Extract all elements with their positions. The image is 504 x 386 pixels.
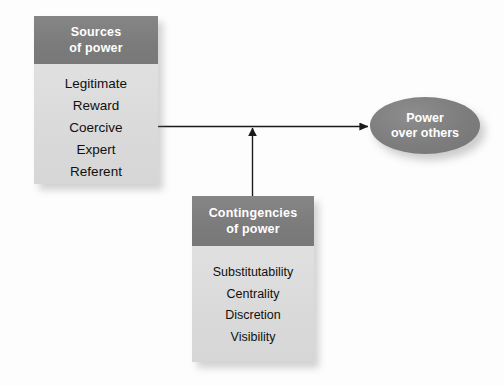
sources-header-line-2: of power (69, 41, 123, 56)
list-item: Expert (76, 143, 115, 157)
contingencies-header-line-2: of power (226, 222, 280, 237)
contingencies-body: Substitutability Centrality Discretion V… (192, 246, 314, 362)
contingencies-header-line-1: Contingencies (209, 206, 298, 221)
contingencies-header: Contingencies of power (192, 196, 314, 246)
node-power-over-others: Power over others (370, 97, 480, 154)
list-item: Referent (70, 165, 122, 179)
list-item: Coercive (69, 121, 122, 135)
list-item: Centrality (227, 288, 280, 301)
sources-header: Sources of power (34, 16, 158, 64)
outcome-line-1: Power (406, 111, 444, 126)
sources-body: Legitimate Reward Coercive Expert Refere… (34, 64, 158, 184)
node-sources-of-power: Sources of power Legitimate Reward Coerc… (34, 16, 158, 184)
sources-header-line-1: Sources (71, 25, 122, 40)
list-item: Substitutability (213, 266, 294, 279)
list-item: Discretion (225, 309, 281, 322)
diagram-canvas: Sources of power Legitimate Reward Coerc… (0, 0, 504, 386)
outcome-line-2: over others (391, 126, 459, 141)
node-contingencies-of-power: Contingencies of power Substitutability … (192, 196, 314, 362)
list-item: Reward (73, 99, 120, 113)
list-item: Visibility (231, 331, 276, 344)
list-item: Legitimate (65, 77, 127, 91)
